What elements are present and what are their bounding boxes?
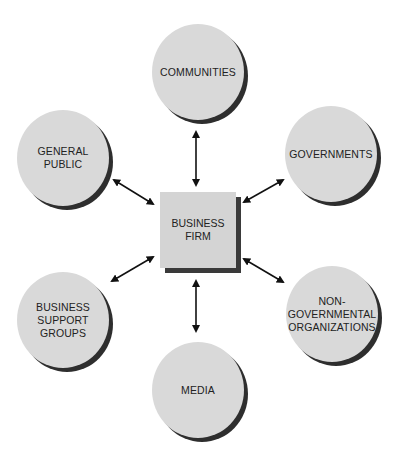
center-label: BUSINESSFIRM xyxy=(171,217,224,243)
node-communities: COMMUNITIES xyxy=(152,24,244,120)
node-label: BUSINESSSUPPORTGROUPS xyxy=(36,301,90,340)
arrow-governments xyxy=(244,180,283,202)
node-label: MEDIA xyxy=(181,384,215,397)
node-general-public: GENERALPUBLIC xyxy=(17,110,109,206)
node-label: COMMUNITIES xyxy=(160,66,236,79)
node-governments: GOVERNMENTS xyxy=(285,106,377,202)
center-business-firm: BUSINESSFIRM xyxy=(160,192,236,268)
arrow-general-public xyxy=(114,180,153,204)
node-business-support-groups: BUSINESSSUPPORTGROUPS xyxy=(17,272,109,368)
node-label: GOVERNMENTS xyxy=(289,148,372,161)
node-media: MEDIA xyxy=(152,342,244,438)
node-label: NON-GOVERNMENTALORGANIZATIONS xyxy=(288,295,377,334)
node-label: GENERALPUBLIC xyxy=(38,145,89,171)
arrow-ngo xyxy=(244,259,283,282)
arrow-business-support xyxy=(112,257,153,281)
node-non-governmental-organizations: NON-GOVERNMENTALORGANIZATIONS xyxy=(286,266,378,362)
